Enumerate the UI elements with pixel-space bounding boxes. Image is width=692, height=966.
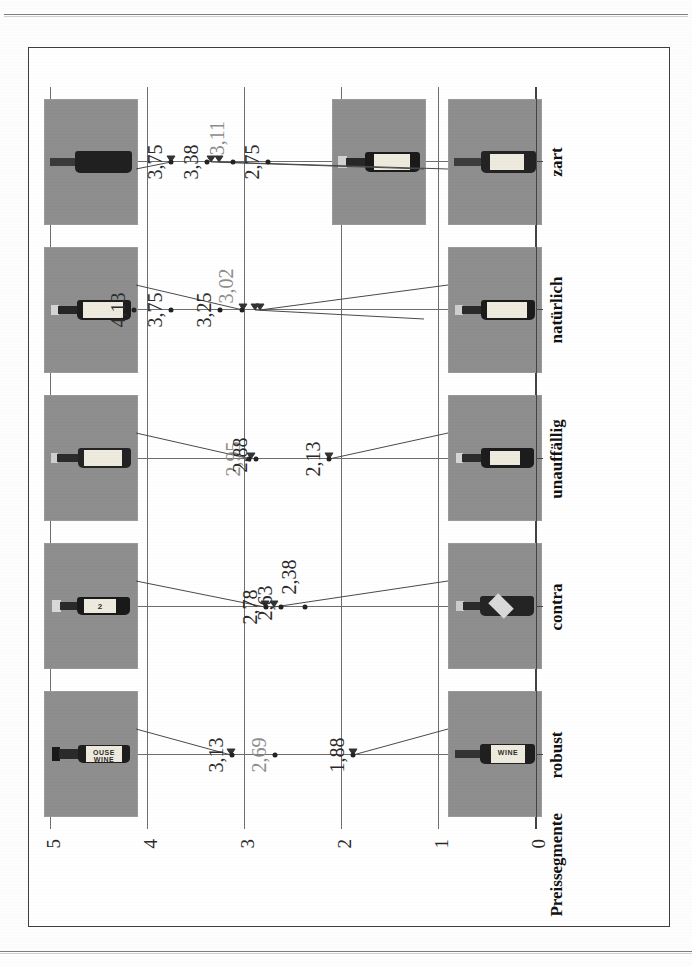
axis-title-preissegmente: Preissegmente	[548, 813, 565, 931]
data-point	[327, 457, 332, 462]
x-category-unauffaellig: unauffällig	[548, 384, 565, 534]
x-axis-tick	[536, 161, 543, 162]
data-label: 3,75	[145, 293, 165, 328]
data-point	[254, 457, 259, 462]
y-tick-label-2: 2	[335, 839, 354, 925]
page-bottom-rule-shadow	[0, 953, 692, 954]
y-tick-label-0: 0	[529, 839, 548, 925]
leader-lines	[50, 87, 536, 829]
figure-rotation-host: OUSE WINE 2	[28, 47, 668, 925]
data-point	[205, 160, 210, 165]
data-label: 3,38	[181, 145, 201, 180]
x-category-natuerlich: natürlich	[548, 235, 565, 385]
data-point	[230, 753, 235, 758]
data-point	[132, 308, 137, 313]
plot-area: OUSE WINE 2	[50, 87, 536, 829]
x-category-zart: zart	[548, 87, 565, 237]
data-point	[279, 605, 284, 610]
data-label: 3,13	[206, 738, 226, 773]
page-bottom-rule	[0, 951, 692, 952]
x-category-robust: robust	[548, 680, 565, 830]
data-label: 2,13	[303, 442, 323, 477]
x-axis-tick	[536, 309, 543, 310]
data-point	[240, 308, 245, 313]
data-point	[273, 753, 278, 758]
data-point	[169, 308, 174, 313]
data-label: 2,88	[230, 438, 250, 473]
data-point	[266, 160, 271, 165]
x-axis-tick	[536, 458, 543, 459]
data-point	[169, 160, 174, 165]
y-tick-label-4: 4	[141, 839, 160, 925]
data-label: 3,02	[216, 269, 236, 304]
y-tick-label-1: 1	[432, 839, 451, 925]
y-tick-label-5: 5	[44, 839, 63, 925]
data-label: 3,11	[207, 121, 227, 155]
data-point	[218, 308, 223, 313]
x-axis-tick	[536, 606, 543, 607]
chart-canvas: OUSE WINE 2	[28, 47, 668, 925]
x-category-contra: contra	[548, 532, 565, 682]
scanned-page: OUSE WINE 2	[0, 0, 692, 966]
data-point	[303, 605, 308, 610]
page-top-rule	[4, 14, 688, 15]
data-label: 1,88	[327, 738, 347, 773]
data-label: 2,69	[249, 738, 269, 773]
data-label: 2,63	[255, 586, 275, 621]
data-label: 3,25	[194, 293, 214, 328]
data-label: 3,75	[145, 145, 165, 180]
data-point	[351, 753, 356, 758]
data-label: 2,75	[242, 145, 262, 180]
data-point	[231, 160, 236, 165]
data-label: 4,13	[108, 293, 128, 328]
x-axis-tick	[536, 754, 543, 755]
data-label: 2,38	[279, 560, 299, 595]
y-tick-label-3: 3	[238, 839, 257, 925]
page-top-rule-shadow	[4, 16, 688, 17]
